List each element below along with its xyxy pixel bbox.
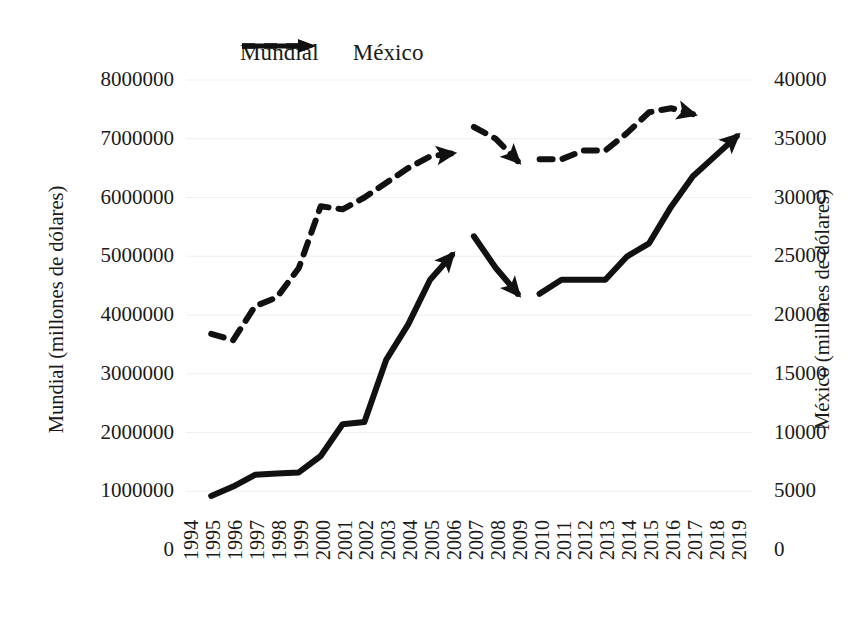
chart-plot-area (0, 0, 864, 644)
series-line-mxico (474, 236, 518, 293)
series-line-mundial (474, 127, 518, 161)
series-line-mundial (540, 108, 693, 159)
series-line-mxico (211, 255, 452, 496)
chart-figure: Mundial México Mundial (millones de dóla… (0, 0, 864, 644)
series-line-mxico (540, 136, 737, 293)
